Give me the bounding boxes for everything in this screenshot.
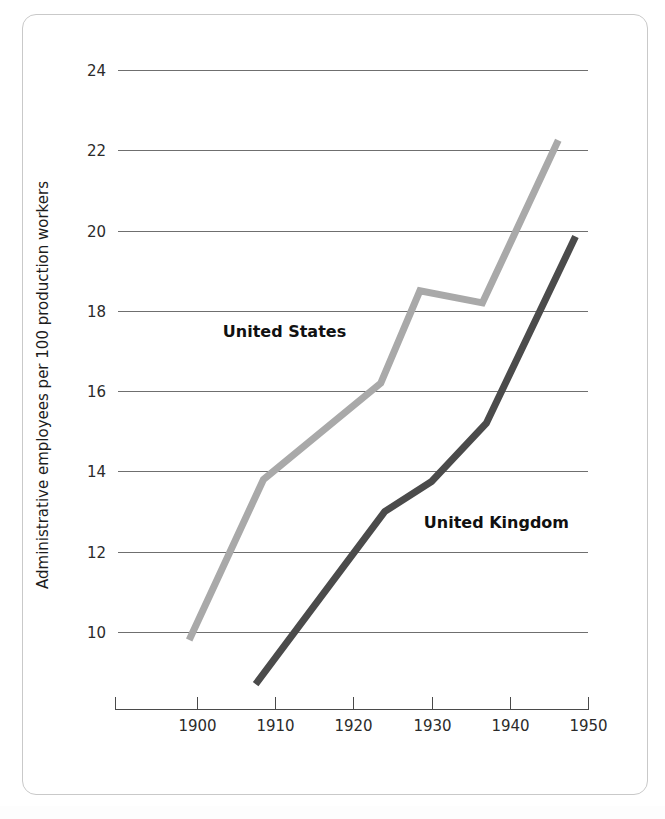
page-bottom-strip [0, 806, 665, 819]
figure-card [22, 14, 648, 795]
